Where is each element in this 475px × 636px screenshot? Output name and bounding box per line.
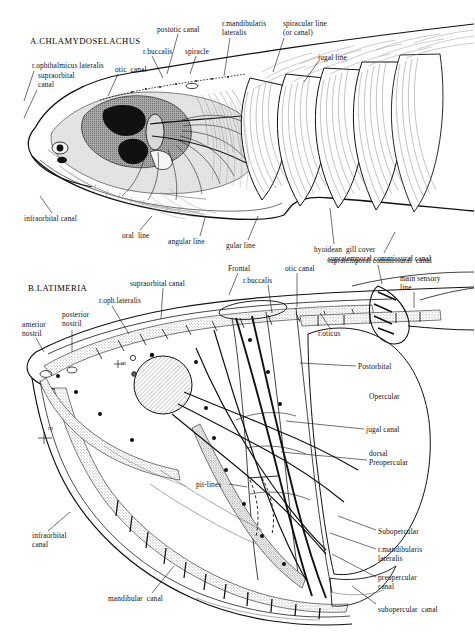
label-a-buccalis: r.buccalis	[143, 48, 172, 57]
label-b-buccalis: r.buccalis	[243, 277, 272, 286]
label-ro-2: ro	[48, 424, 53, 433]
label-a-supraorbital: supraorbital canal	[38, 72, 75, 89]
label-a-oral: oral line	[122, 232, 149, 241]
label-a-spiracular: spiracular line (or canal)	[283, 20, 327, 37]
label-b-supratemporal: supratemporal commissural canal	[327, 257, 432, 266]
label-a-angular: angular line	[168, 238, 205, 247]
leader-a-spiracular	[273, 38, 284, 72]
leader-b-mandibularis	[330, 533, 376, 549]
label-a-jugal: jugal line	[318, 54, 347, 63]
label-ro-1: ro	[121, 359, 126, 368]
label-b-infraorbital: infraorbital canal	[32, 532, 67, 549]
label-b-postorbital: Postorbital	[358, 363, 391, 372]
leader-a-spiracle	[190, 56, 196, 74]
label-b-mandibular: mandibular canal	[108, 595, 163, 604]
leader-b-subopercular	[338, 516, 376, 530]
label-b-opercular: Opercular	[369, 393, 400, 402]
label-b-preopercular: preopercular canal	[378, 574, 417, 591]
label-b-main-sensory: main sensory line	[400, 275, 441, 292]
label-b-pit-lines: pit-lines	[196, 481, 221, 490]
label-b-subopercular: Subopercular	[378, 528, 419, 537]
leader-a-oral	[140, 216, 152, 230]
panel-a-title: A.CHLAMYDOSELACHUS	[30, 36, 141, 46]
leader-b-supratemporal	[378, 265, 382, 284]
leader-a-infraorbital	[40, 196, 52, 213]
label-b-supraorbital: supraorbital canal	[130, 280, 185, 289]
label-b-anterior-nostril: anterior nostril	[22, 321, 46, 338]
leader-a-hyoidean	[330, 208, 334, 244]
label-b-otic: otic canal	[285, 265, 315, 274]
label-b-posterior-nostril: posterior nostril	[62, 311, 89, 328]
label-a-ophthalmicus: r.ophthalmicus lateralis	[32, 62, 104, 71]
label-b-oph-lateralis: r.oph.lateralis	[99, 297, 141, 306]
label-b-jugal-canal: jugal canal	[366, 426, 400, 435]
label-a-mandibularis: r.mandibularis lateralis	[222, 20, 266, 37]
panel-a-artwork	[28, 24, 474, 220]
leader-a-angular	[200, 218, 205, 236]
label-b-frontal: Frontal	[228, 265, 250, 274]
leader-b-dorsal-preopercular	[281, 452, 367, 460]
label-a-infraorbital: infraorbital canal	[24, 215, 77, 224]
label-a-postotic: postotic canal	[157, 26, 200, 35]
leader-b-jugal-canal	[286, 421, 364, 429]
leader-b-supraorbital	[161, 288, 163, 319]
leader-a-supraorbital	[24, 90, 37, 118]
label-a-otic: otic canal	[115, 66, 147, 75]
panel-b-title: B.LATIMERIA	[28, 283, 87, 293]
leader-b-frontal	[229, 273, 238, 295]
leader-a-supratemporal	[384, 232, 395, 253]
leader-a-ophthalmicus	[24, 71, 34, 101]
label-b-dorsal-preopercular: dorsal Preopercular	[369, 450, 408, 467]
leader-b-infraorbital	[48, 512, 70, 531]
label-a-gular: gular line	[226, 242, 255, 251]
label-a-spiracle: spiracle	[185, 48, 209, 57]
leader-b-buccalis	[268, 285, 272, 313]
label-b-subopercular-canal: subopercular canal	[378, 606, 438, 615]
leader-a-buccalis	[152, 56, 163, 78]
label-b-oticus: r.oticus	[318, 330, 341, 339]
label-b-mandibularis: r.mandibularis lateralis	[378, 546, 422, 563]
